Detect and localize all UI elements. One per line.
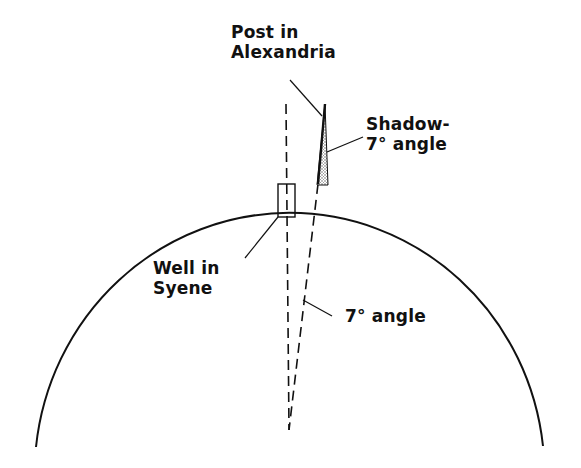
- well-to-center-dashed-line: [286, 104, 289, 430]
- shadow-label-line2: 7° angle: [366, 134, 450, 154]
- center-angle-label: 7° angle: [345, 306, 426, 326]
- post-label: Post in Alexandria: [231, 22, 336, 62]
- post-leader-line: [290, 80, 322, 116]
- post-label-line2: Alexandria: [231, 42, 336, 62]
- angle-leader-line: [303, 300, 332, 316]
- well-label: Well in Syene: [153, 258, 220, 298]
- post-to-center-dashed-line: [289, 184, 318, 430]
- well-leader-line: [245, 217, 278, 258]
- post-label-line1: Post in: [231, 22, 336, 42]
- eratosthenes-diagram: [0, 0, 581, 468]
- shadow-label-line1: Shadow-: [366, 114, 450, 134]
- well-label-line2: Syene: [153, 278, 220, 298]
- shadow-label: Shadow- 7° angle: [366, 114, 450, 154]
- shadow-leader-line: [327, 137, 363, 152]
- well-label-line1: Well in: [153, 258, 220, 278]
